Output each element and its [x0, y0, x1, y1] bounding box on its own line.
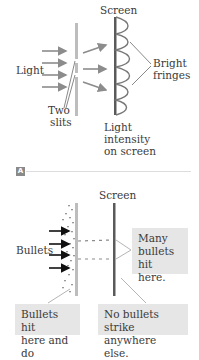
intensity-wave-icon [116, 17, 130, 115]
intensity-label-line3: on screen [104, 145, 156, 157]
two-slits-label-line1: Two [48, 104, 70, 116]
callout-line: here and do [21, 334, 74, 360]
callout-line: anywhere else. [104, 334, 182, 360]
bullets-label: Bullets [16, 244, 53, 256]
callout-line: Bullets hit [21, 308, 74, 334]
scattered-bullets [62, 205, 75, 292]
bullet-screen-label: Screen [99, 189, 136, 201]
incoming-light-arrows [42, 51, 66, 87]
callout-line: hit here. [138, 258, 182, 284]
intensity-label-line2: intensity [104, 133, 150, 145]
callout-line: bullets [138, 245, 182, 258]
two-slits-label-line2: slits [50, 116, 72, 128]
callout-line: No bullets strike [104, 308, 182, 334]
screen-label: Screen [100, 4, 137, 16]
outgoing-light-arrows [83, 45, 106, 90]
bright-fringes-label-line1: Bright [153, 57, 187, 69]
bullet-paths [78, 240, 114, 259]
two-slit-light-diagram [0, 0, 199, 165]
no-bullets-callout: No bullets strike anywhere else. [98, 304, 188, 335]
panel-a-badge: A [16, 167, 25, 176]
bullet-wall [75, 203, 78, 296]
slit-barrier [75, 23, 78, 116]
bullet-screen [113, 203, 116, 296]
many-bullets-callout: Many bullets hit here. [132, 228, 188, 274]
light-label: Light [16, 64, 44, 76]
bullets-hit-wall-callout: Bullets hit here and do [15, 304, 80, 335]
intensity-label-line1: Light [104, 121, 132, 133]
panel-divider [26, 171, 191, 172]
bright-fringes-label-line2: fringes [153, 69, 190, 81]
callout-line: Many [138, 232, 182, 245]
